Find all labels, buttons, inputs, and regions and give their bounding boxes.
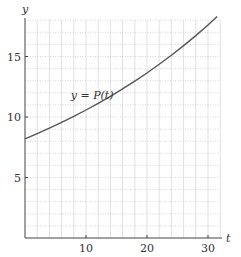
y-axis-label: y <box>21 3 29 16</box>
y-tick-label: 10 <box>7 111 21 124</box>
axes <box>25 18 222 238</box>
chart: 10203051015 y t y = P(t) <box>0 0 241 257</box>
curve-p-of-t <box>25 17 217 139</box>
x-tick-label: 30 <box>201 242 215 255</box>
x-tick-label: 20 <box>140 242 154 255</box>
x-axis-label: t <box>226 232 231 245</box>
x-tick-label: 10 <box>79 242 93 255</box>
y-tick-label: 15 <box>7 51 21 64</box>
y-tick-label: 5 <box>14 172 21 185</box>
curve-annotation: y = P(t) <box>70 89 114 102</box>
grid <box>25 20 220 238</box>
